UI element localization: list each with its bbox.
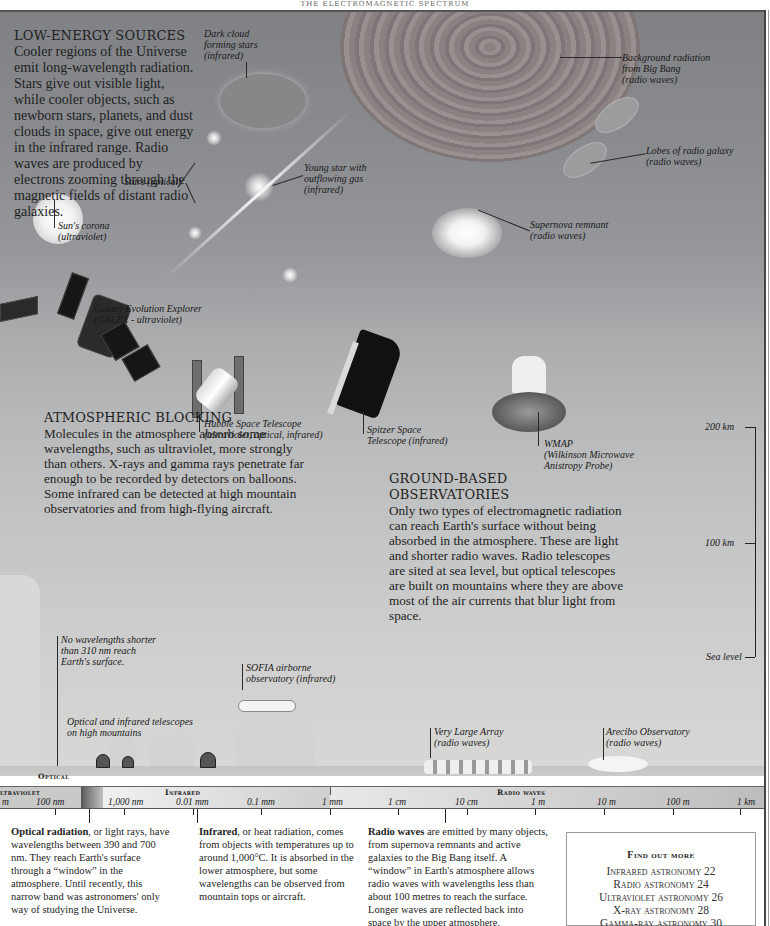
leader-line xyxy=(242,664,243,690)
leader-line xyxy=(92,304,93,334)
ground-based-heading: GROUND-BASED OBSERVATORIES xyxy=(389,471,629,503)
radio-band-name: Radio waves xyxy=(497,788,545,797)
tick-label: 1 cm xyxy=(388,797,406,807)
altitude-axis xyxy=(755,427,756,657)
star-icon xyxy=(282,267,298,283)
galex-label: Galaxy Evolution Explorer(GALEX - ultrav… xyxy=(94,303,202,325)
find-out-more-box: Find out more Infrared astronomy 22 Radi… xyxy=(566,832,756,926)
tick-label: 10 cm xyxy=(455,797,478,807)
infrared-description: Infrared, or heat radiation, comes from … xyxy=(199,825,359,903)
low-energy-heading: LOW-ENERGY SOURCES xyxy=(14,28,194,44)
background-radiation-label: Background radiationfrom Big Bang(radio … xyxy=(622,52,710,85)
leader-line xyxy=(560,57,622,58)
tick-label: 0.01 mm xyxy=(176,797,209,807)
big-bang-background-radiation-icon xyxy=(340,10,640,162)
altitude-label-200km: 200 km xyxy=(705,421,734,432)
leader-line xyxy=(54,200,55,228)
atmospheric-blocking-heading: ATMOSPHERIC BLOCKING xyxy=(44,410,314,426)
arecibo-label: Arecibo Observatory(radio waves) xyxy=(606,726,690,748)
tick-label: 1 mm xyxy=(322,797,343,807)
sofia-label: SOFIA airborneobservatory (infrared) xyxy=(246,662,335,684)
dark-cloud-label: Dark cloudforming stars(infrared) xyxy=(204,28,258,61)
scale-tick xyxy=(604,809,605,815)
tick-label: 100 nm xyxy=(36,797,64,807)
cross-reference-link[interactable]: Infrared astronomy 22 xyxy=(567,865,755,878)
dark-cloud-icon xyxy=(218,72,308,130)
altitude-tick xyxy=(745,657,755,658)
radio-galaxy-label: Lobes of radio galaxy(radio waves) xyxy=(646,145,734,167)
altitude-label-sea-level: Sea level xyxy=(706,651,742,662)
vla-label: Very Large Array(radio waves) xyxy=(434,726,503,748)
ultraviolet-band-name: ltraviolet xyxy=(0,788,40,797)
scale-tick xyxy=(193,809,194,815)
stars-label: Stars (optical) xyxy=(124,176,182,187)
altitude-tick xyxy=(745,543,755,544)
band-divider xyxy=(330,787,331,795)
page-border xyxy=(764,10,766,926)
arecibo-dish-icon xyxy=(588,756,648,772)
scale-tick xyxy=(535,809,536,815)
no-wavelengths-label: No wavelengths shorterthan 310 nm reachE… xyxy=(61,634,156,667)
infrared-band-name: Infrared xyxy=(165,788,200,797)
sun-corona-label: Sun's corona(ultraviolet) xyxy=(58,220,110,242)
optical-band-label: Optical xyxy=(38,772,69,781)
young-star-label: Young star withoutflowing gas(infrared) xyxy=(304,162,366,195)
scale-tick xyxy=(330,809,331,815)
tick-label: 0.1 mm xyxy=(247,797,275,807)
spitzer-telescope-icon xyxy=(338,334,398,424)
tick-label: 1,000 nm xyxy=(108,797,143,807)
low-energy-body: Cooler regions of the Universe emit long… xyxy=(14,44,194,220)
atmospheric-blocking-body: Molecules in the atmosphere absorb some … xyxy=(44,426,314,516)
leader-line xyxy=(246,62,247,78)
mountain-icon xyxy=(235,712,315,768)
star-icon xyxy=(206,130,222,146)
mountain-telescopes-label: Optical and infrared telescopeson high m… xyxy=(67,716,193,738)
low-energy-section: LOW-ENERGY SOURCES Cooler regions of the… xyxy=(14,28,194,220)
wmap-probe-icon xyxy=(490,356,570,436)
ground-based-section: GROUND-BASED OBSERVATORIES Only two type… xyxy=(389,471,629,623)
scale-tick xyxy=(55,809,56,815)
page-border xyxy=(768,10,769,926)
illustration-scene: LOW-ENERGY SOURCES Cooler regions of the… xyxy=(0,10,764,776)
leader-line xyxy=(603,728,604,760)
leader-line xyxy=(430,728,431,758)
find-out-more-title: Find out more xyxy=(567,849,755,860)
very-large-array-icon xyxy=(424,760,532,774)
leader-line xyxy=(363,412,364,434)
scale-tick xyxy=(740,809,741,815)
leader-line xyxy=(57,636,58,766)
scale-tick xyxy=(673,809,674,815)
leader-line xyxy=(538,412,539,446)
running-head: THE ELECTROMAGNETIC SPECTRUM xyxy=(0,0,770,10)
altitude-label-100km: 100 km xyxy=(705,537,734,548)
young-star-icon xyxy=(244,172,274,202)
cross-reference-link[interactable]: Radio astronomy 24 xyxy=(567,878,755,891)
scale-tick xyxy=(467,809,468,815)
altitude-tick xyxy=(745,427,755,428)
leader-line xyxy=(197,809,198,823)
leader-line xyxy=(89,809,90,823)
atmospheric-blocking-section: ATMOSPHERIC BLOCKING Molecules in the at… xyxy=(44,410,314,516)
tick-label: 1 km xyxy=(737,797,755,807)
tick-label: 10 m xyxy=(597,797,616,807)
wmap-label: WMAP(Wilkinson MicrowaveAnistropy Probe) xyxy=(544,438,634,471)
ground-based-body: Only two types of electromagnetic radiat… xyxy=(389,503,629,623)
supernova-label: Supernova remnant(radio waves) xyxy=(530,219,608,241)
optical-description: Optical radiation, or light rays, have w… xyxy=(11,825,171,916)
tick-label: 100 m xyxy=(666,797,690,807)
scale-tick xyxy=(398,809,399,815)
tick-label: 1 m xyxy=(531,797,545,807)
mountain-cliff xyxy=(0,575,40,775)
cross-reference-link[interactable]: Gamma-ray astronomy 30 xyxy=(567,917,755,926)
optical-segment xyxy=(81,787,103,808)
spitzer-label: Spitzer SpaceTelescope (infrared) xyxy=(367,424,448,446)
cross-reference-link[interactable]: X-ray astronomy 28 xyxy=(567,904,755,917)
scale-tick xyxy=(261,809,262,815)
cross-reference-link[interactable]: Ultraviolet astronomy 26 xyxy=(567,891,755,904)
observatory-dome-icon xyxy=(96,754,110,768)
scale-tick xyxy=(124,809,125,815)
radio-description: Radio waves are emitted by many objects,… xyxy=(368,825,548,926)
observatory-dome-icon xyxy=(122,756,134,768)
spectrum-bar: ltraviolet Infrared Radio waves m 100 nm… xyxy=(0,786,764,809)
sofia-aircraft-icon xyxy=(238,700,296,712)
